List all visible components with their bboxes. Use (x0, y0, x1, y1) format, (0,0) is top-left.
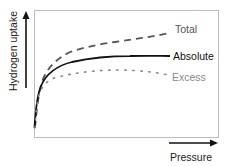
y-axis-label: Hydrogen uptake (7, 11, 19, 91)
x-axis-label: Pressure (170, 151, 212, 163)
label-absolute: Absolute (173, 50, 214, 62)
chart: Total Absolute Excess Pressure Hydrogen … (0, 0, 229, 166)
label-excess: Excess (172, 71, 206, 83)
series-absolute-line (35, 56, 171, 128)
x-axis-arrow-icon (169, 140, 218, 147)
series-excess-line (35, 70, 168, 128)
series-total-line (35, 33, 170, 128)
y-axis-arrow-icon (23, 11, 30, 88)
label-total: Total (175, 23, 197, 35)
